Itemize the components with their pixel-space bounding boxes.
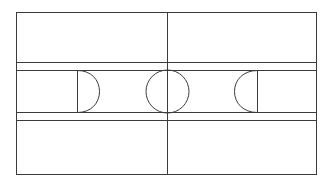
pitch-diagram [0, 0, 333, 187]
pitch-svg-canvas [0, 0, 333, 187]
pitch-outline [17, 13, 317, 175]
